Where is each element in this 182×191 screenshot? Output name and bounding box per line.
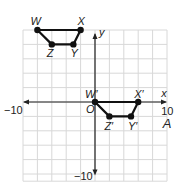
panel-label: A [162,116,172,131]
coordinate-plane-figure: WXYZW′X′Y′Z′Oxy−1010−10A [0,0,182,191]
origin-label: O [86,103,95,115]
y-axis-label: y [98,26,106,38]
labels: WXYZW′X′Y′Z′Oxy−1010−10A [4,15,173,182]
x-axis-right-arrow-icon [161,100,167,105]
vertex-point [34,27,40,33]
vertex-label-y-prime: Y′ [128,120,138,132]
x-axis-left-arrow-icon [23,100,29,105]
vertex-label-x-prime: X′ [133,88,144,100]
y-min-tick-label: −10 [74,170,93,182]
y-axis-down-arrow-icon [93,169,98,175]
vertex-label-z: Z [46,47,55,59]
x-min-tick-label: −10 [4,104,23,116]
y-axis-up-arrow-icon [93,33,98,39]
vertex-label-z-prime: Z′ [103,120,114,132]
x-axis-label: x [160,87,167,99]
vertex-label-y: Y [70,47,78,59]
vertex-label-w: W [30,15,42,27]
vertex-point [106,113,112,119]
coordinate-plane: WXYZW′X′Y′Z′Oxy−1010−10A [0,0,182,191]
vertex-point [128,113,134,119]
vertex-label-x: X [77,15,86,27]
vertex-point [77,27,83,33]
vertex-label-w-prime: W′ [85,88,98,100]
